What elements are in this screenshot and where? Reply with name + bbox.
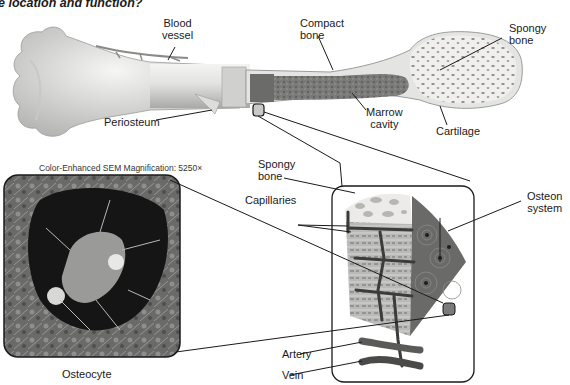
bone-diagram-art [0,0,570,385]
label-marrow-cavity: Marrow cavity [366,106,403,130]
label-compact-bone: Compact bone [300,17,344,41]
label-artery: Artery [282,348,311,360]
sem-photo-osteocyte [4,175,180,357]
label-blood-vessel: Blood vessel [162,17,193,41]
label-spongy-bone-top: Spongy bone [509,22,546,46]
label-spongy-bone-inset: Spongy bone [258,158,295,182]
label-osteon-system: Osteon system [527,190,562,214]
label-cartilage: Cartilage [436,125,480,137]
label-vein: Vein [282,369,303,381]
label-osteocyte: Osteocyte [62,368,112,380]
figure-title: e location and function? [0,0,142,10]
label-periosteum: Periosteum [104,116,160,128]
label-capillaries: Capillaries [245,194,296,206]
sem-caption: Color-Enhanced SEM Magnification: 5250× [39,163,202,173]
